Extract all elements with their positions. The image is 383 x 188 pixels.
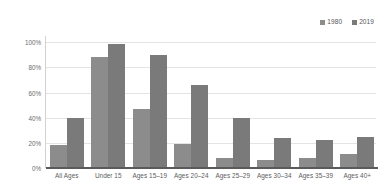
bar-1980-all-ages[interactable] [50,145,67,168]
bar-2019-all-ages[interactable] [67,118,84,168]
x-axis-tick-label: Under 15 [88,172,130,179]
x-axis-tick-label: Ages 40+ [337,172,379,179]
x-axis-tick-label: Ages 25–29 [212,172,254,179]
legend-entry-1980[interactable]: 1980 [320,19,342,26]
y-axis-tick-label: 20% [11,139,41,146]
bar-2019-ages-20–24[interactable] [191,85,208,168]
bar-1980-ages-15–19[interactable] [133,109,150,168]
legend-label: 2019 [359,19,374,26]
legend-label: 1980 [327,19,342,26]
bar-group [46,36,88,168]
x-axis-line [46,167,378,169]
bar-2019-under-15[interactable] [108,44,125,168]
bar-2019-ages-15–19[interactable] [150,55,167,168]
x-axis-tick-label: Ages 35–39 [295,172,337,179]
y-axis-tick-label: 100% [11,39,41,46]
legend-entry-2019[interactable]: 2019 [352,19,374,26]
bar-1980-ages-20–24[interactable] [174,144,191,168]
x-axis-tick-label: Ages 15–19 [129,172,171,179]
y-axis-tick-label: 40% [11,114,41,121]
y-axis-tick-label: 0% [11,165,41,172]
bar-2019-ages-30–34[interactable] [274,138,291,168]
bar-2019-ages-35–39[interactable] [316,140,333,168]
x-axis-labels: All AgesUnder 15Ages 15–19Ages 20–24Ages… [46,172,378,179]
legend-swatch-icon [352,20,357,25]
bar-group [254,36,296,168]
bar-group [171,36,213,168]
bar-group [295,36,337,168]
bar-chart: 1980 2019 0%20%40%60%80%100% All AgesUnd… [0,0,383,188]
chart-legend: 1980 2019 [320,19,374,26]
legend-swatch-icon [320,20,325,25]
y-axis-tick-label: 80% [11,64,41,71]
x-axis-tick-label: Ages 30–34 [254,172,296,179]
bar-group [88,36,130,168]
bar-group [129,36,171,168]
bar-1980-ages-40+[interactable] [340,154,357,168]
bar-series-container [46,36,378,168]
bar-group [212,36,254,168]
y-axis-tick-label: 60% [11,89,41,96]
bar-1980-under-15[interactable] [91,57,108,168]
bar-2019-ages-25–29[interactable] [233,118,250,168]
bar-group [337,36,379,168]
bar-2019-ages-40+[interactable] [357,137,374,168]
x-axis-tick-label: Ages 20–24 [171,172,213,179]
x-axis-tick-label: All Ages [46,172,88,179]
